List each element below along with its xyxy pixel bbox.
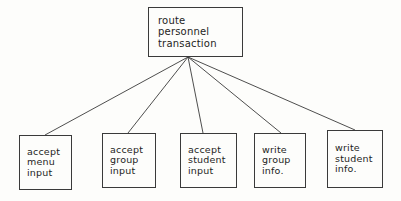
node-accept-group-input: accept group input xyxy=(102,133,156,188)
node-route-personnel-transaction: route personnel transaction xyxy=(148,7,243,57)
node-label-group: route personnel transaction xyxy=(149,15,217,50)
node-label-line: route xyxy=(158,15,217,27)
node-label-group: accept menu input xyxy=(20,147,60,179)
node-label-line: info. xyxy=(335,164,373,175)
node-accept-student-input: accept student input xyxy=(180,133,237,188)
node-label-line: info. xyxy=(262,166,291,177)
node-write-group-info: write group info. xyxy=(254,133,306,188)
node-label-line: input xyxy=(27,168,60,179)
structure-chart-diagram: route personnel transaction accept menu … xyxy=(0,0,401,201)
node-label-line: transaction xyxy=(158,38,217,50)
node-label-group: accept student input xyxy=(181,145,226,177)
connector-line-accept-menu-input xyxy=(45,57,188,135)
node-label-line: input xyxy=(110,166,143,177)
connector-line-accept-student-input xyxy=(188,57,203,133)
connector-line-accept-group-input xyxy=(128,57,188,133)
node-label-line: input xyxy=(188,166,226,177)
node-label-line: personnel xyxy=(158,26,217,38)
node-write-student-info: write student info. xyxy=(327,130,383,188)
node-label-group: write group info. xyxy=(255,145,291,177)
connector-line-write-student-info xyxy=(188,57,355,130)
node-accept-menu-input: accept menu input xyxy=(19,135,72,190)
connector-line-write-group-info xyxy=(188,57,281,133)
node-label-group: write student info. xyxy=(328,143,373,175)
node-label-group: accept group input xyxy=(103,145,143,177)
